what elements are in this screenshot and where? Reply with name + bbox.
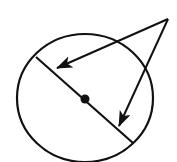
diagram-canvas (0, 0, 177, 162)
center-point (81, 95, 90, 104)
arrow-to-diameter-upper (57, 19, 168, 68)
arrow-to-diameter-lower (119, 19, 168, 126)
circle-diagram (0, 0, 177, 162)
